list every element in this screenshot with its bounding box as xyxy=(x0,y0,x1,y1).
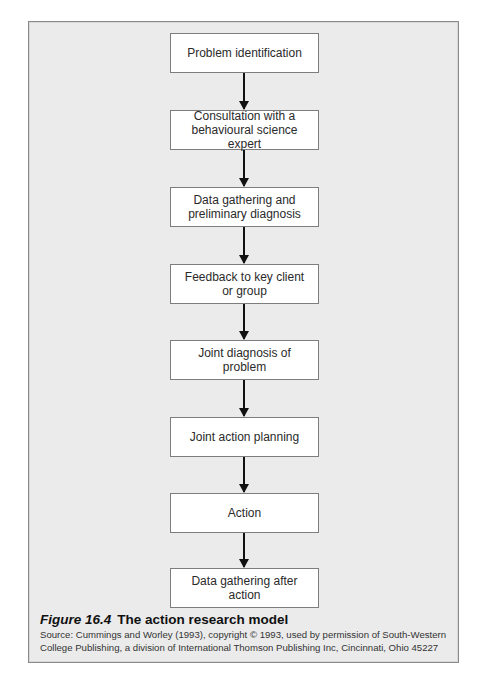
arrow-down-icon xyxy=(243,73,245,109)
step-data-gathering-after-action: Data gathering after action xyxy=(170,568,319,608)
arrow-down-icon xyxy=(243,380,245,416)
figure-source-note: Source: Cummings and Worley (1993), copy… xyxy=(40,629,455,654)
figure-caption-title: Figure 16.4The action research model xyxy=(40,612,288,627)
step-joint-action-planning: Joint action planning xyxy=(170,417,319,457)
figure-title: The action research model xyxy=(117,612,288,627)
step-consultation-expert: Consultation with a behavioural science … xyxy=(170,110,319,150)
step-joint-diagnosis: Joint diagnosis of problem xyxy=(170,340,319,380)
step-problem-identification: Problem identification xyxy=(170,33,319,73)
step-action: Action xyxy=(170,493,319,533)
step-data-gathering-preliminary-diagnosis: Data gathering and preliminary diagnosis xyxy=(170,187,319,227)
page-header-fragment xyxy=(355,0,415,6)
arrow-down-icon xyxy=(243,227,245,263)
arrow-down-icon xyxy=(243,457,245,492)
arrow-down-icon xyxy=(243,533,245,567)
arrow-down-icon xyxy=(243,304,245,339)
figure-number: Figure 16.4 xyxy=(40,612,111,627)
arrow-down-icon xyxy=(243,150,245,186)
step-feedback-client: Feedback to key client or group xyxy=(170,264,319,304)
